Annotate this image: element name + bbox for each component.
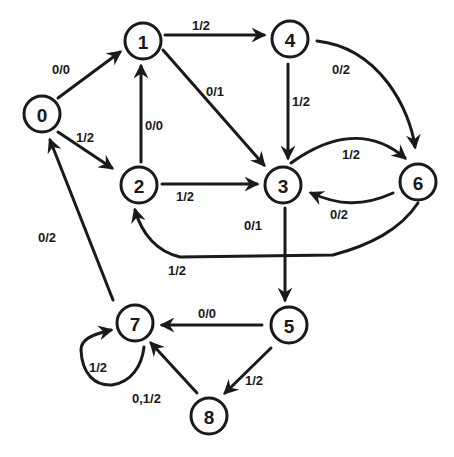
edge-label-3-5: 0/1 [244, 218, 262, 233]
node-0: 0 [24, 96, 60, 132]
state-transition-graph: 0/0 1/2 1/2 0/1 0/0 1/2 1/2 0/2 1/2 0/2 … [0, 0, 454, 457]
edge-label-2-3: 1/2 [176, 189, 194, 204]
edge-label-1-4: 1/2 [192, 18, 210, 33]
edge-8-7 [151, 343, 197, 393]
edge-1-3 [163, 50, 264, 165]
edge-label-5-8: 1/2 [245, 373, 263, 388]
node-5: 5 [271, 307, 307, 343]
node-7: 7 [117, 305, 153, 341]
node-4-label: 4 [285, 30, 296, 51]
edge-label-6-2: 1/2 [168, 263, 186, 278]
node-3: 3 [265, 167, 301, 203]
edge-label-2-1: 0/0 [145, 118, 163, 133]
node-3-label: 3 [278, 176, 289, 197]
node-5-label: 5 [284, 316, 295, 337]
node-0-label: 0 [37, 105, 48, 126]
edge-label-1-3: 0/1 [206, 84, 224, 99]
edge-label-0-1: 0/0 [52, 62, 70, 77]
node-6-label: 6 [413, 173, 424, 194]
edge-label-6-3: 0/2 [330, 207, 348, 222]
node-1: 1 [125, 23, 161, 59]
edge-label-0-2: 1/2 [76, 130, 94, 145]
edge-label-8-7: 0,1/2 [132, 391, 161, 406]
edge-label-7-0: 0/2 [38, 230, 56, 245]
edge-6-3 [311, 193, 393, 203]
node-8: 8 [191, 398, 227, 434]
edge-label-5-7: 0/0 [198, 306, 216, 321]
node-8-label: 8 [204, 407, 215, 428]
node-1-label: 1 [138, 32, 149, 53]
node-6: 6 [400, 164, 436, 200]
edge-label-3-6: 1/2 [342, 147, 360, 162]
node-4: 4 [272, 21, 308, 57]
node-7-label: 7 [130, 314, 141, 335]
edge-6-2 [135, 203, 418, 257]
edges [50, 35, 418, 393]
edge-4-6 [317, 41, 415, 147]
edge-label-4-6: 0/2 [332, 62, 350, 77]
edge-label-7-7: 1/2 [89, 360, 107, 375]
edge-label-4-3: 1/2 [292, 94, 310, 109]
node-2: 2 [121, 167, 157, 203]
node-2-label: 2 [134, 176, 145, 197]
